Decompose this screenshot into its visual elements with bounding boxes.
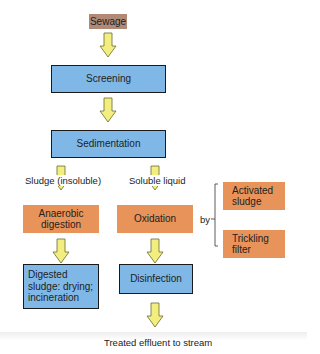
node-label: Sewage <box>90 16 126 28</box>
node-label: Trickling filter <box>232 233 276 256</box>
node-label: Sedimentation <box>77 138 141 150</box>
arrow-down-icon <box>52 238 70 264</box>
node-sewage: Sewage <box>89 14 127 29</box>
node-label: Anaerobic digestion <box>31 208 91 231</box>
node-label: Digested sludge: drying; incineration <box>28 269 98 304</box>
node-label: Oxidation <box>134 213 176 225</box>
label-sludge: Sludge (insoluble) <box>24 175 102 186</box>
node-activated-sludge: Activated sludge <box>223 182 285 210</box>
node-sedimentation: Sedimentation <box>51 130 166 158</box>
arrow-down-icon <box>99 97 117 123</box>
node-trickling-filter: Trickling filter <box>223 230 285 258</box>
node-screening: Screening <box>51 65 166 93</box>
node-label: Activated sludge <box>232 185 276 208</box>
node-anaerobic-digestion: Anaerobic digestion <box>23 205 99 233</box>
node-label: Disinfection <box>130 273 182 285</box>
label-by: by <box>200 214 210 225</box>
label-treated-effluent: Treated effluent to stream <box>104 337 212 348</box>
node-oxidation: Oxidation <box>117 205 193 233</box>
node-disinfection: Disinfection <box>119 264 193 294</box>
arrow-down-icon <box>99 32 117 58</box>
label-soluble-liquid: Soluble liquid <box>128 175 187 186</box>
node-label: Screening <box>86 73 131 85</box>
arrow-down-icon <box>146 302 164 328</box>
node-digested-sludge: Digested sludge: drying; incineration <box>23 264 99 309</box>
arrow-down-icon <box>146 238 164 264</box>
bracket-icon <box>211 183 223 247</box>
